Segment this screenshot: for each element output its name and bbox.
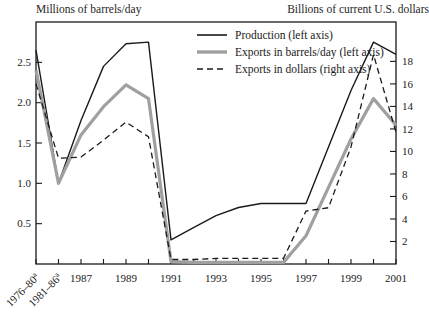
legend-label-2: Exports in dollars (right axis) — [235, 63, 371, 76]
right-tick-label: 4 — [402, 213, 408, 225]
legend-label-1: Exports in barrels/day (left axis) — [235, 46, 384, 59]
chart-container: Millions of barrels/day Billions of curr… — [0, 0, 429, 317]
x-tick-label: 1999 — [340, 272, 363, 284]
line-chart: Millions of barrels/day Billions of curr… — [0, 0, 429, 317]
right-tick-label: 10 — [402, 145, 414, 157]
right-tick-label: 12 — [402, 123, 413, 135]
right-axis-title: Billions of current U.S. dollars — [287, 3, 429, 15]
right-tick-label: 6 — [402, 190, 408, 202]
x-axis-ticks: 1976–80a1981–86a198719891991199319951997… — [3, 259, 407, 309]
right-tick-label: 16 — [402, 78, 414, 90]
left-tick-label: 2.0 — [17, 96, 31, 108]
x-tick-label: 1995 — [250, 272, 273, 284]
right-tick-label: 18 — [402, 55, 414, 67]
right-tick-label: 2 — [402, 235, 408, 247]
left-axis-title: Millions of barrels/day — [36, 3, 142, 16]
x-tick-label: 1991 — [160, 272, 182, 284]
left-tick-label: 1.0 — [17, 177, 31, 189]
x-tick-label: 1987 — [70, 272, 93, 284]
x-tick-label: 1997 — [295, 272, 318, 284]
legend-label-0: Production (left axis) — [235, 29, 333, 42]
x-tick-label: 1989 — [115, 272, 138, 284]
right-tick-label: 14 — [402, 100, 414, 112]
left-tick-label: 1.5 — [17, 137, 31, 149]
right-tick-label: 8 — [402, 168, 408, 180]
plot-border — [36, 22, 396, 264]
series-layer — [36, 42, 396, 262]
x-tick-label: 1993 — [205, 272, 228, 284]
chart-legend: Production (left axis)Exports in barrels… — [197, 29, 384, 76]
left-tick-label: 0.5 — [17, 217, 31, 229]
left-tick-label: 2.5 — [17, 56, 31, 68]
plot-frame — [36, 22, 396, 264]
right-axis-ticks: 24681012141618 — [390, 55, 414, 247]
x-tick-label: 2001 — [385, 272, 407, 284]
